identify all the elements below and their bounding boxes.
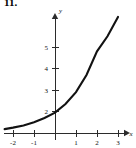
- exponential-curve: [5, 17, 118, 129]
- y-tick-label: 5: [45, 44, 49, 52]
- y-axis-label: y: [58, 7, 63, 15]
- x-tick-label: 3: [116, 139, 120, 147]
- x-tick-label: -2: [10, 139, 16, 147]
- y-tick-label: 3: [45, 87, 49, 95]
- y-tick-label: 4: [45, 65, 49, 73]
- y-axis-arrow-icon: [52, 13, 58, 19]
- y-tick-label: 2: [45, 108, 49, 116]
- figure-container: 11. -2 -1 1 2 3 2 3 4 5 y x: [0, 0, 136, 148]
- x-tick-label: 1: [74, 139, 78, 147]
- exponential-graph: -2 -1 1 2 3 2 3 4 5 y x: [0, 0, 136, 148]
- x-tick-label: -1: [31, 139, 37, 147]
- x-axis-label: x: [128, 130, 133, 138]
- x-tick-label: 2: [95, 139, 99, 147]
